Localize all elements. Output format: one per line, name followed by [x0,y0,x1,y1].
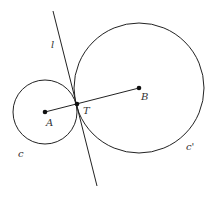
label-B: B [140,91,148,102]
point-T [75,102,80,107]
label-l: l [51,39,54,50]
point-B [137,86,142,91]
point-A [43,110,48,115]
label-A: A [45,117,53,128]
segment-AB [45,88,139,112]
label-c-prime: c' [186,141,194,152]
label-c: c [18,148,24,159]
tangent-circles-diagram: l A B T c c' [0,0,217,199]
tangent-line-l [53,11,97,186]
label-T: T [83,105,91,116]
